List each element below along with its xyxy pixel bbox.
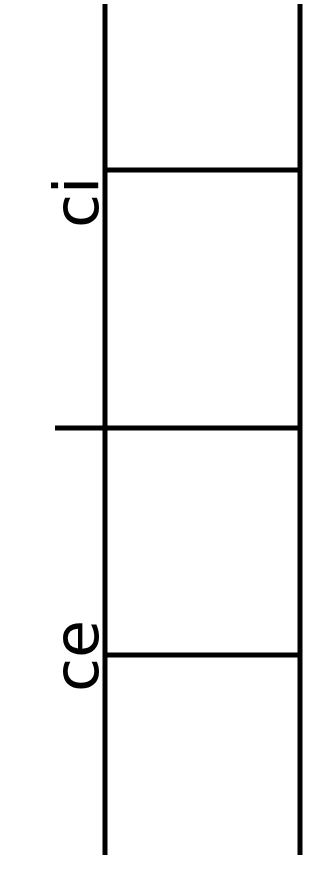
label-ci: ci	[40, 177, 113, 228]
label-ce: ce	[40, 620, 113, 692]
ladder-diagram: ci ce	[0, 0, 333, 889]
